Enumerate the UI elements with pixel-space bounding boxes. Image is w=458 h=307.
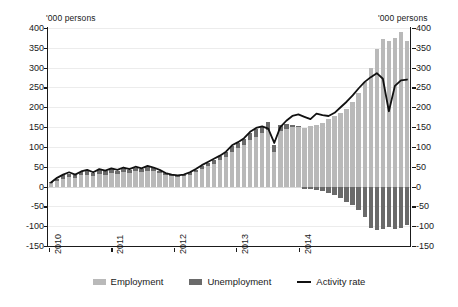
y-axis-unit-caption-right: '000 persons	[378, 13, 428, 23]
y-axis-label-right: 150	[416, 122, 431, 132]
y-axis-label-right: -150	[416, 241, 434, 251]
legend-swatch-icon	[189, 279, 202, 285]
y-axis-tick-right	[412, 246, 416, 247]
y-axis-tick-right	[412, 147, 416, 148]
y-axis-label-left: 100	[29, 142, 44, 152]
y-axis-tick-right	[412, 226, 416, 227]
activity-rate-line	[48, 28, 410, 246]
y-axis-left-spine	[47, 27, 48, 247]
y-axis-tick-right	[412, 68, 416, 69]
x-axis-label-2010: 2010	[53, 234, 63, 254]
y-axis-label-left: 250	[29, 82, 44, 92]
y-axis-label-right: -100	[416, 221, 434, 231]
legend-label: Employment	[111, 276, 164, 287]
x-axis-label-2013: 2013	[240, 234, 250, 254]
y-axis-right-spine	[410, 27, 411, 247]
y-axis-tick-right	[412, 187, 416, 188]
y-axis-label-right: 0	[416, 182, 421, 192]
x-axis-tick	[49, 248, 50, 252]
y-axis-label-right: 350	[416, 43, 431, 53]
chart-container: '000 persons '000 persons 40040035035030…	[0, 0, 458, 307]
y-axis-tick-left	[44, 206, 48, 207]
legend-item-unemployment[interactable]: Unemployment	[189, 276, 271, 287]
legend-item-employment[interactable]: Employment	[93, 276, 164, 287]
legend-label: Activity rate	[316, 276, 365, 287]
y-axis-tick-left	[44, 28, 48, 29]
y-axis-tick-left	[44, 68, 48, 69]
y-axis-label-left: -50	[31, 201, 44, 211]
y-axis-label-left: 50	[34, 162, 44, 172]
x-axis-label-2011: 2011	[115, 235, 125, 254]
y-axis-tick-left	[44, 107, 48, 108]
y-axis-label-left: 400	[29, 23, 44, 33]
y-axis-label-right: 400	[416, 23, 431, 33]
y-axis-label-left: 0	[39, 182, 44, 192]
y-axis-tick-left	[44, 226, 48, 227]
y-axis-label-left: -150	[26, 241, 44, 251]
y-axis-tick-left	[44, 187, 48, 188]
x-axis-tick	[299, 248, 300, 252]
y-axis-unit-caption-left: '000 persons	[46, 13, 96, 23]
y-axis-label-left: 200	[29, 102, 44, 112]
y-axis-tick-right	[412, 107, 416, 108]
x-axis-label-2014: 2014	[303, 234, 313, 254]
x-axis-tick	[236, 248, 237, 252]
y-axis-label-right: 100	[416, 142, 431, 152]
y-axis-tick-right	[412, 127, 416, 128]
y-axis-label-left: 150	[29, 122, 44, 132]
x-axis-tick	[174, 248, 175, 252]
y-axis-label-left: 350	[29, 43, 44, 53]
y-axis-tick-left	[44, 87, 48, 88]
y-axis-tick-left	[44, 167, 48, 168]
x-axis-tick	[111, 248, 112, 252]
legend-swatch-icon	[93, 279, 106, 285]
plot-area	[48, 28, 410, 246]
y-axis-label-left: -100	[26, 221, 44, 231]
y-axis-label-left: 300	[29, 63, 44, 73]
legend-label: Unemployment	[207, 276, 271, 287]
legend-swatch-icon	[297, 281, 311, 283]
y-axis-label-right: 300	[416, 63, 431, 73]
y-axis-tick-right	[412, 48, 416, 49]
y-axis-tick-right	[412, 206, 416, 207]
x-axis-spine	[47, 246, 411, 247]
y-axis-tick-left	[44, 48, 48, 49]
chart-legend: EmploymentUnemploymentActivity rate	[0, 276, 458, 287]
y-axis-label-right: 200	[416, 102, 431, 112]
y-axis-tick-right	[412, 28, 416, 29]
y-axis-label-right: -50	[416, 201, 429, 211]
y-axis-tick-left	[44, 147, 48, 148]
y-axis-tick-left	[44, 246, 48, 247]
y-axis-tick-right	[412, 87, 416, 88]
y-axis-tick-right	[412, 167, 416, 168]
y-axis-label-right: 250	[416, 82, 431, 92]
legend-item-activity-rate[interactable]: Activity rate	[297, 276, 365, 287]
y-axis-label-right: 50	[416, 162, 426, 172]
x-axis-label-2012: 2012	[178, 234, 188, 254]
y-axis-tick-left	[44, 127, 48, 128]
